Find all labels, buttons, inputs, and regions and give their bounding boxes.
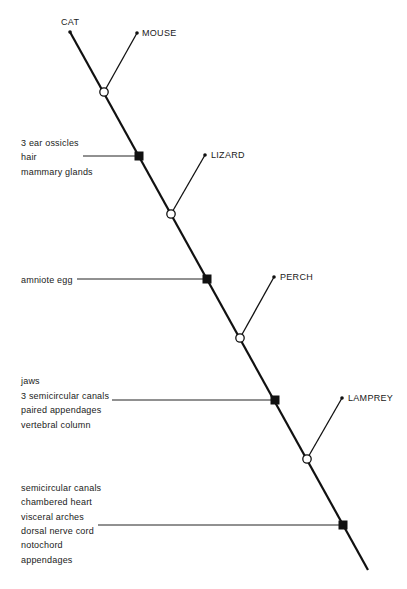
character-node-4 [339, 521, 348, 530]
trait-label: hair [21, 152, 37, 162]
taxon-label-lamprey: LAMPREY [348, 393, 393, 403]
trait-label: amniote egg [21, 275, 73, 285]
trait-label: appendages [21, 555, 73, 565]
character-node-2 [203, 275, 212, 284]
taxon-label-lizard: LIZARD [211, 150, 245, 160]
branch-lizard [171, 155, 205, 214]
branch-perch [240, 277, 274, 338]
trait-label: 3 ear ossicles [21, 138, 79, 148]
taxon-label-cat: CAT [61, 17, 79, 27]
tip-perch [272, 275, 276, 279]
trait-label: visceral arches [21, 512, 84, 522]
character-node-3 [271, 396, 280, 405]
tip-cat [68, 30, 72, 34]
tip-lizard [203, 153, 207, 157]
taxon-label-perch: PERCH [280, 272, 313, 282]
trait-label: paired appendages [21, 405, 101, 415]
trait-label: 3 semicircular canals [21, 391, 109, 401]
trait-label: dorsal nerve cord [21, 526, 94, 536]
tip-lamprey [340, 396, 344, 400]
character-node-1 [135, 152, 144, 161]
branch-node-2 [167, 210, 175, 218]
trait-label: mammary glands [21, 167, 93, 177]
trait-label: chambered heart [21, 497, 92, 507]
branch-mouse [104, 33, 137, 92]
taxon-label-mouse: MOUSE [142, 28, 177, 38]
tip-mouse [135, 31, 139, 35]
branch-node-3 [236, 334, 244, 342]
branch-lamprey [307, 398, 342, 459]
branch-node-1 [100, 88, 108, 96]
branch-node-4 [303, 455, 311, 463]
trait-label: semicircular canals [21, 483, 101, 493]
main-trunk-line [70, 32, 368, 570]
trait-label: jaws [21, 376, 40, 386]
trait-label: vertebral column [21, 420, 91, 430]
trait-label: notochord [21, 540, 63, 550]
